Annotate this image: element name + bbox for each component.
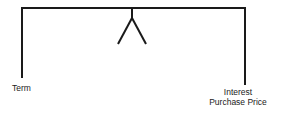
left-label: Term: [12, 83, 31, 93]
right-label-interest: Interest: [205, 87, 271, 97]
fulcrum-leg-right: [132, 18, 146, 44]
right-labels: Interest Purchase Price: [205, 87, 271, 107]
fulcrum-leg-left: [118, 18, 132, 44]
right-label-purchase-price: Purchase Price: [205, 97, 271, 107]
